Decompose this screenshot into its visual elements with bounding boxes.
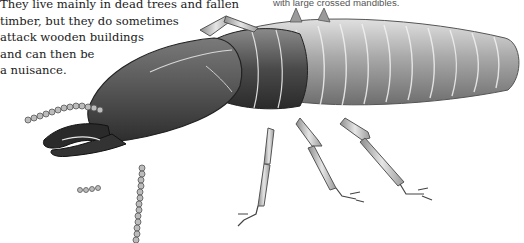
body-text-paragraph: They live mainly in dead trees and falle…: [0, 0, 239, 79]
body-text-line: They live mainly in dead trees and falle…: [0, 0, 239, 13]
body-text-line: a nuisance.: [0, 62, 239, 79]
leg-icon: [258, 118, 404, 206]
body-text-line: and can then be: [0, 46, 239, 63]
body-text-line: timber, but they do sometimes: [0, 13, 239, 30]
figure-caption: with large crossed mandibles.: [273, 0, 399, 8]
body-text-line: attack wooden buildings: [0, 29, 239, 46]
